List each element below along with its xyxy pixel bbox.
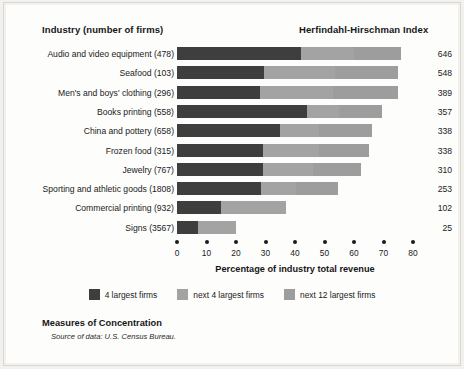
- bar-segment-1: [177, 201, 221, 214]
- x-tick-dot: [411, 240, 415, 244]
- hhi-value: 389: [408, 88, 452, 98]
- stacked-bar: [177, 86, 398, 99]
- x-tick-dot: [264, 240, 268, 244]
- x-tick-label: 70: [369, 248, 399, 258]
- legend-swatch-next-12: [284, 289, 295, 300]
- chart-row: Frozen food (315)338: [0, 142, 464, 161]
- bar-segment-1: [177, 47, 301, 60]
- x-tick-dot: [205, 240, 209, 244]
- row-label: Men's and boys' clothing (296): [58, 88, 174, 98]
- hhi-value: 102: [408, 203, 452, 213]
- legend-swatch-next-4: [177, 289, 188, 300]
- hhi-value: 338: [408, 146, 452, 156]
- chart-row: Sporting and athletic goods (1808)253: [0, 180, 464, 199]
- row-label: Frozen food (315): [106, 146, 174, 156]
- stacked-bar: [177, 105, 382, 118]
- row-label: Commercial printing (932): [75, 203, 174, 213]
- row-label: Jewelry (767): [122, 165, 174, 175]
- bar-segment-3: [339, 105, 382, 118]
- x-tick-label: 50: [310, 248, 340, 258]
- x-tick-dot: [352, 240, 356, 244]
- legend-label: 4 largest firms: [105, 290, 158, 300]
- chart-row: Books printing (558)357: [0, 103, 464, 122]
- bar-segment-2: [263, 163, 313, 176]
- bar-segment-1: [177, 66, 264, 79]
- bar-segment-3: [313, 163, 362, 176]
- caption-title: Measures of Concentration: [42, 318, 162, 328]
- bar-segment-2: [261, 182, 296, 195]
- x-tick-label: 30: [251, 248, 281, 258]
- bar-segment-1: [177, 144, 263, 157]
- bar-segment-2: [307, 105, 339, 118]
- legend-label: next 4 largest firms: [193, 290, 264, 300]
- legend-item: next 12 largest firms: [284, 289, 375, 300]
- row-label: Signs (3567): [125, 223, 174, 233]
- hhi-value: 310: [408, 165, 452, 175]
- stacked-bar: [177, 47, 401, 60]
- row-label: Seafood (103): [120, 68, 174, 78]
- x-tick-dot: [234, 240, 238, 244]
- row-label: China and pottery (658): [84, 126, 174, 136]
- bar-segment-1: [177, 221, 198, 234]
- bar-segment-1: [177, 105, 307, 118]
- bar-segment-3: [296, 182, 337, 195]
- x-tick-label: 60: [339, 248, 369, 258]
- chart-row: Seafood (103)548: [0, 64, 464, 83]
- legend-label: next 12 largest firms: [300, 290, 375, 300]
- stacked-bar: [177, 144, 369, 157]
- bar-segment-3: [354, 47, 401, 60]
- stacked-bar: [177, 182, 338, 195]
- legend-swatch-4-largest: [89, 289, 100, 300]
- chart-legend: 4 largest firmsnext 4 largest firmsnext …: [0, 289, 464, 300]
- stacked-bar: [177, 66, 398, 79]
- hhi-value: 253: [408, 184, 452, 194]
- caption-source: Source of data: U.S. Census Bureau.: [51, 332, 176, 341]
- x-tick-dot: [323, 240, 327, 244]
- hhi-value: 25: [408, 223, 452, 233]
- x-axis-title: Percentage of industry total revenue: [177, 264, 413, 274]
- legend-item: next 4 largest firms: [177, 289, 264, 300]
- hhi-value: 646: [408, 49, 452, 59]
- stacked-bar: [177, 163, 361, 176]
- chart-row: Audio and video equipment (478)646: [0, 45, 464, 64]
- chart-row: Commercial printing (932)102: [0, 199, 464, 218]
- stacked-bar: [177, 124, 372, 137]
- bar-segment-3: [333, 86, 398, 99]
- bar-segment-1: [177, 182, 261, 195]
- x-tick-label: 0: [162, 248, 192, 258]
- row-label: Sporting and athletic goods (1808): [43, 184, 174, 194]
- bar-segment-1: [177, 86, 260, 99]
- bar-segment-2: [260, 86, 334, 99]
- bar-segment-2: [198, 221, 236, 234]
- x-tick-dot: [175, 240, 179, 244]
- bar-chart-plot: Audio and video equipment (478)646Seafoo…: [0, 0, 464, 369]
- bar-segment-2: [280, 124, 318, 137]
- chart-page: Industry (number of firms) Herfindahl-Hi…: [0, 0, 464, 369]
- legend-item: 4 largest firms: [89, 289, 158, 300]
- chart-row: Signs (3567)25: [0, 219, 464, 238]
- row-label: Audio and video equipment (478): [47, 49, 174, 59]
- hhi-value: 357: [408, 107, 452, 117]
- bar-segment-2: [264, 66, 335, 79]
- hhi-value: 548: [408, 68, 452, 78]
- x-tick-label: 10: [192, 248, 222, 258]
- bar-segment-3: [319, 144, 369, 157]
- hhi-value: 338: [408, 126, 452, 136]
- x-tick-label: 80: [398, 248, 428, 258]
- chart-row: Men's and boys' clothing (296)389: [0, 84, 464, 103]
- bar-segment-2: [263, 144, 319, 157]
- bar-segment-2: [301, 47, 354, 60]
- bar-segment-3: [319, 124, 372, 137]
- stacked-bar: [177, 221, 236, 234]
- row-label: Books printing (558): [97, 107, 174, 117]
- x-tick-label: 40: [280, 248, 310, 258]
- bar-segment-2: [221, 201, 286, 214]
- bar-segment-3: [335, 66, 398, 79]
- x-tick-label: 20: [221, 248, 251, 258]
- bar-segment-1: [177, 163, 263, 176]
- x-tick-dot: [382, 240, 386, 244]
- chart-row: China and pottery (658)338: [0, 122, 464, 141]
- x-tick-dot: [293, 240, 297, 244]
- chart-row: Jewelry (767)310: [0, 161, 464, 180]
- bar-segment-1: [177, 124, 280, 137]
